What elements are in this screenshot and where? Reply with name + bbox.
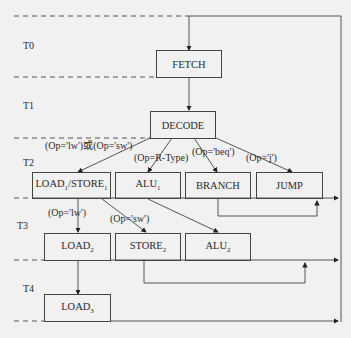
label-sub: 3 bbox=[90, 307, 94, 315]
label-sub: 2 bbox=[227, 246, 231, 254]
period-label-t3: T3 bbox=[17, 220, 28, 232]
state-fetch-label: FETCH bbox=[172, 59, 205, 70]
period-label-t0: T0 bbox=[23, 40, 34, 52]
label-main: STORE bbox=[130, 240, 163, 251]
label-sub: 2 bbox=[90, 246, 94, 254]
condition-j: (Op='j') bbox=[246, 152, 277, 164]
state-load1-store1-label: LOAD1/STORE1 bbox=[35, 178, 107, 192]
label-main: LOAD bbox=[61, 301, 90, 312]
state-fetch: FETCH bbox=[156, 50, 222, 78]
label-main: LOAD bbox=[35, 178, 64, 189]
state-jump: JUMP bbox=[256, 172, 323, 199]
state-alu1: ALU1 bbox=[115, 172, 181, 199]
state-branch-label: BRANCH bbox=[196, 180, 240, 191]
label-sep: /STORE bbox=[68, 178, 104, 189]
period-label-t2: T2 bbox=[23, 157, 34, 169]
state-store2-label: STORE2 bbox=[130, 240, 167, 254]
period-label-t4: T4 bbox=[23, 283, 34, 295]
state-decode: DECODE bbox=[150, 111, 216, 139]
label-sub: 2 bbox=[163, 246, 167, 254]
period-label-t1: T1 bbox=[23, 100, 34, 112]
label-sub: 1 bbox=[157, 185, 161, 193]
state-jump-label: JUMP bbox=[276, 180, 303, 191]
condition-sw: (Op='sw') bbox=[110, 213, 149, 225]
condition-lw: (Op='lw') bbox=[48, 207, 86, 219]
state-load3: LOAD3 bbox=[44, 294, 111, 322]
state-load3-label: LOAD3 bbox=[61, 301, 94, 315]
state-decode-label: DECODE bbox=[162, 120, 205, 131]
state-load2: LOAD2 bbox=[44, 233, 111, 261]
label-main: LOAD bbox=[61, 240, 90, 251]
state-store2: STORE2 bbox=[115, 233, 181, 261]
condition-rtype: (Op=R-Type) bbox=[134, 152, 188, 164]
condition-beq: (Op='beq') bbox=[192, 146, 235, 158]
state-alu2-label: ALU2 bbox=[205, 240, 230, 254]
label-sub2: 1 bbox=[104, 185, 108, 193]
state-load1-store1: LOAD1/STORE1 bbox=[32, 172, 111, 199]
state-alu1-label: ALU1 bbox=[135, 178, 160, 192]
label-main: ALU bbox=[135, 178, 157, 189]
state-branch: BRANCH bbox=[185, 172, 251, 199]
state-load2-label: LOAD2 bbox=[61, 240, 94, 254]
condition-lw-or-sw: (Op='lw')或(Op='sw') bbox=[45, 140, 132, 152]
label-main: ALU bbox=[205, 240, 227, 251]
state-alu2: ALU2 bbox=[185, 233, 251, 261]
